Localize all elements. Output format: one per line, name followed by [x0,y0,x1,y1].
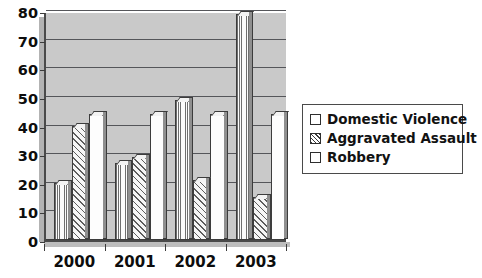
y-tick-label-60: 60 [2,62,38,78]
y-tick-label-0: 0 [2,234,38,250]
y-tick-label-30: 30 [2,148,38,164]
y-tick-label-20: 20 [2,177,38,193]
bar-side-face [206,177,210,239]
x-tick-mark-0 [44,244,45,251]
bar-chart-figure: 01020304050607080 2000200120022003 Domes… [0,0,482,278]
bar-2003-series1 [236,14,251,240]
bar-side-face [68,180,72,239]
bar-side-face [103,111,107,239]
x-category-label-2003: 2003 [226,253,287,271]
legend-label-domestic-violence: Domestic Violence [327,113,467,127]
bar-side-face [189,97,193,239]
bar-side-face [128,160,132,239]
x-category-label-2001: 2001 [105,253,166,271]
y-tick-label-40: 40 [2,120,38,136]
x-category-label-2002: 2002 [165,253,226,271]
bar-2003-series2 [253,197,268,240]
plot-area [44,13,286,242]
legend-swatch-aggravated-assault-icon [310,133,321,144]
chart-legend: Domestic Violence Aggravated Assault Rob… [302,104,463,174]
y-tick-label-10: 10 [2,205,38,221]
legend-item-aggravated-assault: Aggravated Assault [310,129,456,148]
bar-2002-series3 [210,114,225,240]
bar-2002-series2 [193,180,208,240]
legend-swatch-domestic-violence-icon [310,114,321,125]
bar-2003-series3 [271,114,286,240]
bar-side-face [284,111,288,239]
bar-side-face [224,111,228,239]
legend-swatch-robbery-icon [310,152,321,163]
x-tick-mark-1 [105,244,106,251]
bar-side-face [249,11,253,239]
bar-side-face [163,111,167,239]
x-category-label-2000: 2000 [44,253,105,271]
bar-2001-series2 [132,157,147,240]
x-tick-mark-4 [286,244,287,251]
legend-item-robbery: Robbery [310,148,456,167]
x-tick-mark-2 [165,244,166,251]
bar-2001-series3 [150,114,165,240]
bar-2000-series1 [54,183,69,240]
bar-side-face [85,123,89,240]
y-tick-label-50: 50 [2,91,38,107]
bar-2000-series2 [72,126,87,241]
legend-item-domestic-violence: Domestic Violence [310,110,456,129]
bar-2002-series1 [175,100,190,240]
bar-2000-series3 [89,114,104,240]
bar-side-face [146,154,150,239]
y-tick-label-70: 70 [2,34,38,50]
legend-label-aggravated-assault: Aggravated Assault [327,132,477,146]
bar-side-face [267,194,271,239]
y-tick-label-80: 80 [2,5,38,21]
legend-label-robbery: Robbery [327,151,391,165]
bar-2001-series1 [115,163,130,240]
x-tick-mark-3 [226,244,227,251]
plot-floor [44,242,290,247]
